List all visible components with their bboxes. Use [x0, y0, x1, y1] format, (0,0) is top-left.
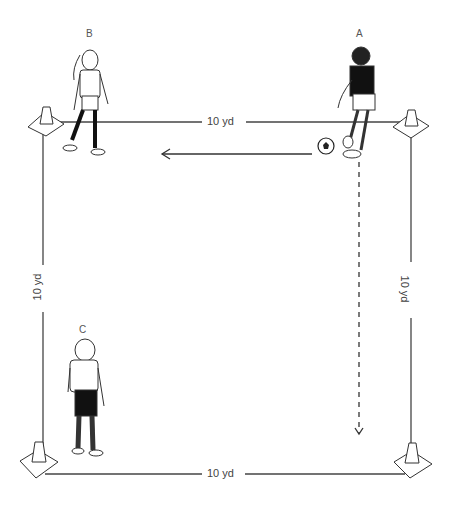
- run-arrow: [355, 162, 363, 434]
- player-a-label: A: [356, 28, 363, 39]
- pass-arrow: [162, 149, 312, 159]
- cone-bottom-right: [394, 443, 432, 478]
- cone-top-left: [28, 107, 64, 136]
- player-b-label: B: [86, 28, 93, 39]
- bottom-distance-label: 10 yd: [203, 467, 238, 479]
- left-distance-label: 10 yd: [31, 270, 43, 305]
- player-b-figure: [63, 50, 108, 155]
- player-c-figure: [68, 339, 104, 456]
- player-a-figure: [338, 47, 375, 158]
- top-distance-label: 10 yd: [203, 115, 238, 127]
- cone-top-right: [393, 110, 429, 138]
- drill-diagram: [0, 0, 454, 507]
- cone-bottom-left: [20, 442, 58, 478]
- player-c-label: C: [79, 324, 86, 335]
- soccer-ball-icon: [318, 138, 334, 154]
- right-distance-label: 10 yd: [399, 272, 411, 307]
